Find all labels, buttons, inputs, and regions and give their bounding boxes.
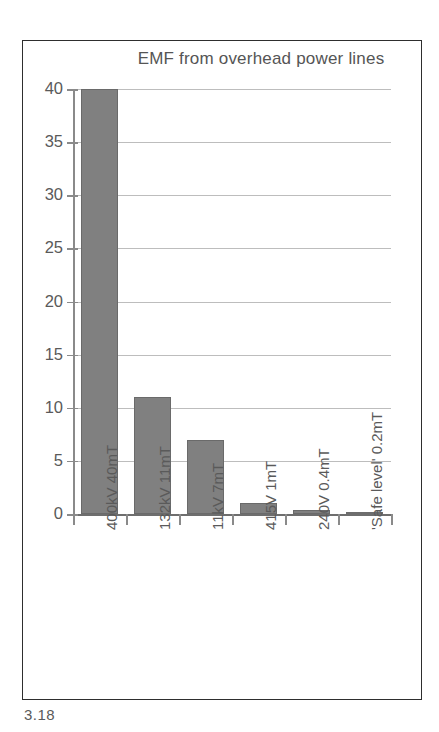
y-axis-tick — [67, 142, 78, 144]
x-axis-label: 400kV 40mT — [104, 445, 119, 530]
figure-frame: EMF from overhead power lines 0510152025… — [22, 40, 422, 700]
x-axis-label: 11kV 7mT — [210, 463, 225, 530]
gridline — [73, 355, 391, 356]
y-axis-tick — [67, 195, 78, 197]
y-axis-tick — [67, 89, 78, 91]
y-axis-tick — [67, 461, 78, 463]
x-axis-tick — [391, 514, 393, 525]
gridline — [73, 302, 391, 303]
x-axis-label: 'Safe level' 0.2mT — [369, 412, 384, 530]
y-axis-label: 10 — [23, 399, 63, 416]
x-axis-tick — [232, 514, 234, 525]
y-axis-label: 30 — [23, 186, 63, 203]
x-axis-tick — [73, 514, 75, 525]
x-axis-label: 132kV 11mT — [157, 446, 172, 530]
y-axis-label: 0 — [23, 505, 63, 522]
y-axis-label: 20 — [23, 293, 63, 310]
y-axis-tick — [67, 408, 78, 410]
y-axis-label: 35 — [23, 133, 63, 150]
gridline — [73, 142, 391, 143]
gridline — [73, 408, 391, 409]
x-axis-tick — [285, 514, 287, 525]
gridline — [73, 461, 391, 462]
x-axis-tick — [179, 514, 181, 525]
y-axis-label: 25 — [23, 239, 63, 256]
y-axis-tick — [67, 302, 78, 304]
y-axis-label: 15 — [23, 346, 63, 363]
gridline — [73, 195, 391, 196]
x-axis-label: 240V 0.4mT — [316, 448, 331, 530]
y-axis-label: 40 — [23, 80, 63, 97]
y-axis-tick — [67, 248, 78, 250]
y-axis-tick — [67, 355, 78, 357]
chart-title: EMF from overhead power lines — [113, 49, 409, 69]
gridline — [73, 248, 391, 249]
gridline — [73, 89, 391, 90]
y-axis-label: 5 — [23, 452, 63, 469]
x-axis-tick — [126, 514, 128, 525]
plot-area — [73, 89, 391, 514]
x-axis-tick — [338, 514, 340, 525]
x-axis-label: 415V 1mT — [263, 461, 278, 530]
figure-caption: 3.18 — [24, 706, 55, 723]
